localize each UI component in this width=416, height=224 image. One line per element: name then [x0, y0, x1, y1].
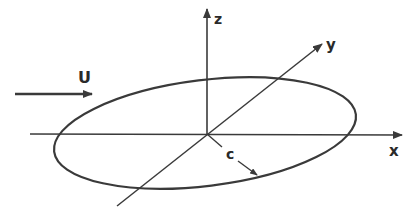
y-axis-label: y	[326, 36, 336, 54]
ellipse-axes-diagram: U x z y c	[0, 0, 416, 224]
x-axis-label: x	[389, 142, 399, 160]
z-axis-label: z	[214, 11, 222, 27]
ellipse-body	[48, 62, 363, 204]
x-axis	[30, 134, 402, 135]
radius-label: c	[226, 146, 234, 162]
radius-arrow	[238, 161, 257, 175]
flow-label: U	[78, 68, 91, 87]
y-axis	[117, 44, 322, 206]
radius-line	[207, 134, 222, 147]
